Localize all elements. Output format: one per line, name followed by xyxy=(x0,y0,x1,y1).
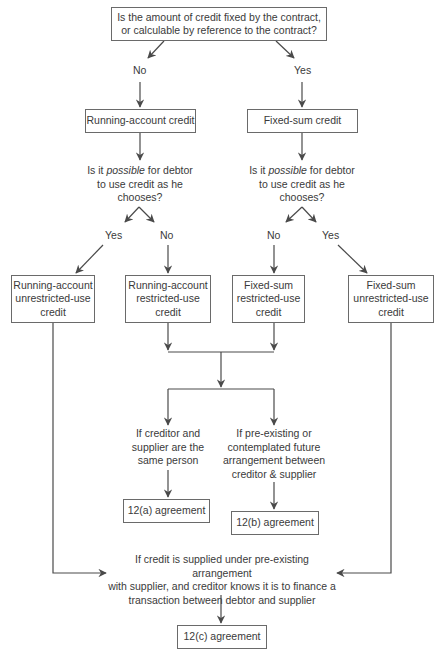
cond-line: contemplated future xyxy=(220,441,328,455)
label-left-no: No xyxy=(160,229,173,241)
box-line: unrestricted-use xyxy=(15,292,90,306)
q-line2: to use credit as he xyxy=(80,178,200,192)
box-label: 12(c) agreement xyxy=(183,630,260,644)
box-running-account-credit: Running-account credit xyxy=(85,109,196,133)
q-pre: Is it xyxy=(87,164,106,176)
box-running-account-unrestricted: Running-account unrestricted-use credit xyxy=(11,275,95,323)
label-left-yes: Yes xyxy=(105,229,122,241)
cond-line: supplier are the xyxy=(120,441,216,455)
box-label: 12(b) agreement xyxy=(236,516,314,530)
box-fixed-sum-restricted: Fixed-sum restricted-use credit xyxy=(232,275,305,323)
cond-line: If credit is supplied under pre-existing… xyxy=(106,553,338,580)
q-emph: possible xyxy=(106,164,145,176)
box-line: credit xyxy=(155,306,181,320)
question-possible-right: Is it possible for debtor to use credit … xyxy=(242,164,362,205)
cond-line: arrangement between xyxy=(220,454,328,468)
condition-a: If creditor and supplier are the same pe… xyxy=(120,427,216,468)
box-line: restricted-use xyxy=(136,292,200,306)
box-12a-agreement: 12(a) agreement xyxy=(123,499,210,523)
box-fixed-sum-credit: Fixed-sum credit xyxy=(247,109,358,133)
label-right-no: No xyxy=(267,229,280,241)
label-top-no: No xyxy=(133,64,146,76)
cond-line: creditor & supplier xyxy=(220,468,328,482)
question-possible-left: Is it possible for debtor to use credit … xyxy=(80,164,200,205)
box-line: unrestricted-use xyxy=(353,292,428,306)
condition-c: If credit is supplied under pre-existing… xyxy=(106,553,338,607)
label-top-yes: Yes xyxy=(294,64,311,76)
box-line: credit xyxy=(378,306,404,320)
box-fixed-sum-unrestricted: Fixed-sum unrestricted-use credit xyxy=(348,275,434,323)
q-pre: Is it xyxy=(249,164,268,176)
box-12c-agreement: 12(c) agreement xyxy=(177,625,267,649)
cond-line: If creditor and xyxy=(120,427,216,441)
box-line: Running-account xyxy=(13,279,92,293)
box-line: Fixed-sum xyxy=(244,279,293,293)
question-line-2: or calculable by reference to the contra… xyxy=(121,24,317,38)
q-post: for debtor xyxy=(145,164,193,176)
box-line: credit xyxy=(40,306,66,320)
box-line: credit xyxy=(256,306,282,320)
box-12b-agreement: 12(b) agreement xyxy=(231,511,319,535)
box-line: Fixed-sum xyxy=(366,279,415,293)
cond-line: transaction between debtor and supplier xyxy=(106,594,338,608)
box-running-account-restricted: Running-account restricted-use credit xyxy=(125,275,211,323)
cond-line: If pre-existing or xyxy=(220,427,328,441)
box-label: Running-account credit xyxy=(87,114,195,128)
condition-b: If pre-existing or contemplated future a… xyxy=(220,427,328,481)
box-label: 12(a) agreement xyxy=(128,504,206,518)
q-line3: chooses? xyxy=(242,191,362,205)
q-emph: possible xyxy=(268,164,307,176)
label-right-yes: Yes xyxy=(322,229,339,241)
question-credit-fixed: Is the amount of credit fixed by the con… xyxy=(111,7,327,41)
q-line3: chooses? xyxy=(80,191,200,205)
cond-line: with supplier, and creditor knows it is … xyxy=(106,580,338,594)
q-line2: to use credit as he xyxy=(242,178,362,192)
q-post: for debtor xyxy=(307,164,355,176)
box-line: Running-account xyxy=(128,279,207,293)
question-line-1: Is the amount of credit fixed by the con… xyxy=(117,11,321,25)
box-line: restricted-use xyxy=(237,292,301,306)
cond-line: same person xyxy=(120,454,216,468)
box-label: Fixed-sum credit xyxy=(264,114,342,128)
